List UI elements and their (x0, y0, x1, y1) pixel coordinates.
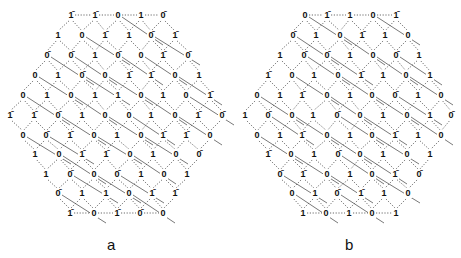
vertex-label: 1 (277, 90, 282, 100)
vertex-label: 0 (289, 70, 294, 80)
vertex-label: 1 (115, 90, 120, 100)
vertex-label: 0 (126, 110, 131, 120)
vertex-label: 0 (138, 50, 143, 60)
panel-a-label: a (107, 236, 115, 253)
vertex-label: 0 (288, 149, 293, 159)
vertex-label: 0 (357, 149, 362, 159)
vertex-label: 0 (438, 90, 443, 100)
vertex-label: 0 (172, 70, 177, 80)
vertex-label: 1 (300, 208, 305, 218)
vertex-label: 1 (311, 70, 316, 80)
vertex-label: 0 (405, 30, 410, 40)
vertex-label: 0 (403, 70, 408, 80)
vertex-label: 1 (55, 30, 60, 40)
vertex-label: 0 (207, 130, 212, 140)
vertex-label: 0 (20, 90, 25, 100)
vertex-label: 1 (347, 10, 352, 20)
vertex-label: 0 (68, 90, 73, 100)
vertex-label: 0 (302, 10, 307, 20)
vertex-label: 0 (172, 110, 177, 120)
vertex-label: 0 (404, 149, 409, 159)
vertex-label: 1 (114, 130, 119, 140)
vertex-label: 0 (91, 169, 96, 179)
vertex-label: 1 (393, 208, 398, 218)
vertex-label: 1 (380, 110, 385, 120)
vertex-label: 1 (415, 90, 420, 100)
vertex-label: 1 (427, 70, 432, 80)
vertex-label: 1 (126, 30, 131, 40)
vertex-label: 0 (32, 70, 37, 80)
vertex-label: 0 (438, 130, 443, 140)
vertex-label: 1 (313, 30, 318, 40)
vertex-label: 1 (347, 90, 352, 100)
vertex-label: 1 (381, 188, 386, 198)
vertex-label: 0 (357, 110, 362, 120)
figure-background (0, 0, 461, 258)
vertex-label: 1 (148, 110, 153, 120)
vertex-label: 1 (160, 90, 165, 100)
vertex-label: 1 (427, 149, 432, 159)
vertex-label: 1 (44, 90, 49, 100)
vertex-label: 0 (79, 30, 84, 40)
vertex-label: 1 (346, 208, 351, 218)
vertex-label: 0 (324, 90, 329, 100)
vertex-label: 1 (347, 50, 352, 60)
vertex-label: 0 (173, 149, 178, 159)
vertex-label: 0 (289, 188, 294, 198)
vertex-label: 0 (370, 10, 375, 20)
vertex-label: 0 (369, 169, 374, 179)
vertex-label: 0 (91, 130, 96, 140)
vertex-label: 1 (380, 149, 385, 159)
vertex-label: 1 (138, 169, 143, 179)
vertex-label: 0 (370, 50, 375, 60)
vertex-label: 0 (160, 208, 165, 218)
vertex-label: 0 (369, 208, 374, 218)
vertex-label: 1 (427, 110, 432, 120)
vertex-label: 1 (311, 149, 316, 159)
vertex-label: 1 (312, 188, 317, 198)
vertex-label: 0 (254, 130, 259, 140)
vertex-label: 0 (405, 188, 410, 198)
vertex-label: 1 (103, 188, 108, 198)
vertex-label: 0 (102, 70, 107, 80)
vertex-label: 1 (310, 110, 315, 120)
vertex-label: 0 (289, 110, 294, 120)
vertex-label: 1 (196, 70, 201, 80)
vertex-label: 1 (380, 70, 385, 80)
vertex-label: 0 (337, 30, 342, 40)
vertex-label: 1 (92, 50, 97, 60)
vertex-label: 0 (56, 149, 61, 159)
vertex-label: 0 (138, 90, 143, 100)
vertex-label: 0 (324, 169, 329, 179)
vertex-label: 0 (138, 130, 143, 140)
vertex-label: 1 (43, 169, 48, 179)
tiling-figure: 1̄1̄010̄101̄10̄1̄0̄0̄10̄01̄0̄010̄01̄1̄01… (0, 0, 461, 258)
vertex-label: 1 (92, 90, 97, 100)
vertex-label: 0 (126, 188, 131, 198)
vertex-label: 0 (127, 149, 132, 159)
panel-b-label: b (345, 236, 353, 253)
vertex-label: 0 (183, 90, 188, 100)
vertex-label: 1 (79, 188, 84, 198)
vertex-label: 0 (404, 110, 409, 120)
vertex-label: 0 (115, 10, 120, 20)
vertex-label: 1 (184, 169, 189, 179)
vertex-label: 1 (277, 50, 282, 60)
vertex-label: 1 (138, 10, 143, 20)
vertex-label: 1 (347, 169, 352, 179)
vertex-label: 1 (55, 70, 60, 80)
vertex-label: 0 (335, 70, 340, 80)
vertex-label: 1 (382, 30, 387, 40)
vertex-label: 1 (242, 110, 247, 120)
vertex-label: 1 (32, 149, 37, 159)
vertex-label: 0 (20, 130, 25, 140)
vertex-label: 1 (277, 130, 282, 140)
vertex-label: 0 (91, 208, 96, 218)
vertex-label: 1 (415, 130, 420, 140)
vertex-label: 1 (150, 149, 155, 159)
vertex-label: 0 (323, 208, 328, 218)
vertex-label: 1 (347, 130, 352, 140)
vertex-label: 0 (102, 110, 107, 120)
vertex-label: 0 (369, 130, 374, 140)
vertex-label: 0 (324, 130, 329, 140)
